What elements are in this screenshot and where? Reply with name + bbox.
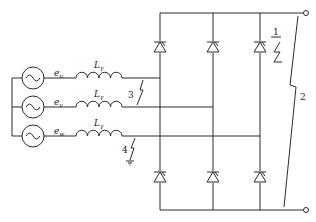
thyristor-upper-2-icon [206,41,220,53]
thyristor-lower-1-icon [153,171,167,183]
thyristor-upper-1-icon [153,41,167,53]
inductor-v-icon [76,101,122,107]
thyristor-lower-3-icon [253,171,267,183]
fault-1-label: 1 [273,27,279,37]
source-u-label: eu [54,68,63,79]
inductor-w-label: Lγ [93,118,104,130]
inductor-w-icon [76,130,122,136]
phase-u: eu Lγ [12,60,160,89]
inductor-u-icon [76,72,122,78]
thyristor-lower-2-icon [206,171,220,183]
inductor-u-label: Lγ [93,60,104,72]
dc-negative-terminal [304,208,309,213]
phase-w: ew Lγ [12,118,260,147]
source-w-label: ew [54,126,65,137]
source-v-label: ev [54,97,63,108]
fault-1-marker: 1 [271,27,282,62]
inductor-v-label: Lγ [93,89,104,101]
fault-2-label: 2 [300,92,306,102]
bridge-rectifier-schematic: eu Lγ ev Lγ ew Lγ [0,0,316,222]
fault-3-label: 3 [128,90,134,100]
fault-4-label: 4 [122,145,128,155]
phase-v: ev Lγ [12,89,213,118]
fault-4-marker: 4 [122,138,135,165]
dc-positive-terminal [304,11,309,16]
fault-2-marker: 2 [284,16,306,207]
thyristor-upper-3-icon [253,41,267,53]
fault-3-marker: 3 [128,80,143,105]
